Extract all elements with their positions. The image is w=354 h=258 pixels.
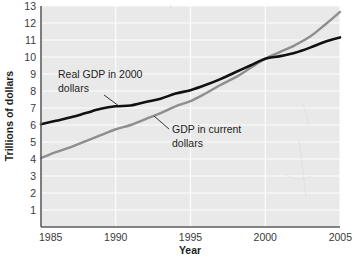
real-gdp-annotation-line1: Real GDP in 2000 [58,68,143,80]
y-tick-label-1: 1 [30,204,36,216]
current-gdp-annotation-line1: GDP in current [172,123,241,135]
x-axis-title: Year [179,244,201,256]
y-tick-label-11: 11 [25,34,36,46]
y-tick-label-7: 7 [30,102,36,114]
chart-canvas: 12345678910111213 19851990199520002005 T… [0,0,354,258]
x-tick-label-2000: 2000 [254,231,278,243]
x-tick-label-2005: 2005 [329,231,353,243]
y-axis-title: Trillions of dollars [3,71,15,162]
y-tick-label-13: 13 [24,0,36,12]
real-gdp-annotation-line2: dollars [58,82,89,94]
y-tick-label-10: 10 [24,51,36,63]
y-tick-label-9: 9 [30,68,36,80]
x-tick-label-1990: 1990 [104,231,128,243]
y-tick-label-12: 12 [24,17,36,29]
y-tick-label-2: 2 [30,187,36,199]
y-tick-label-6: 6 [30,119,36,131]
y-tick-label-8: 8 [30,85,36,97]
y-tick-label-5: 5 [30,136,36,148]
x-tick-label-1995: 1995 [179,231,203,243]
y-tick-label-4: 4 [30,153,36,165]
y-tick-label-3: 3 [30,170,36,182]
x-tick-label-1985: 1985 [39,231,63,243]
gdp-line-chart-figure: 12345678910111213 19851990199520002005 T… [0,0,354,258]
current-gdp-annotation-line2: dollars [172,137,203,149]
